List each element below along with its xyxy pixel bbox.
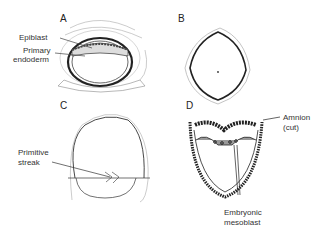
panel-b-drawing bbox=[185, 28, 250, 104]
panel-d-drawing bbox=[190, 117, 280, 197]
epiblast-label: Epiblast bbox=[19, 33, 47, 42]
panel-a-label: A bbox=[60, 13, 67, 24]
primitive-streak-label-2: streak bbox=[18, 158, 40, 167]
panel-b-label: B bbox=[178, 13, 185, 24]
diagram-canvas bbox=[0, 0, 327, 234]
amnion-label-1: Amnion bbox=[283, 113, 310, 122]
embryonic-mesoblast-label-2: mesoblast bbox=[224, 218, 260, 227]
primary-endoderm-label-2: endoderm bbox=[13, 55, 49, 64]
primitive-streak-label-1: Primitive bbox=[18, 148, 49, 157]
panel-a-drawing bbox=[55, 20, 147, 92]
panel-c-label: C bbox=[60, 100, 67, 111]
primary-endoderm-label-1: Primary bbox=[23, 46, 51, 55]
embryonic-mesoblast-label-1: Embryonic bbox=[224, 208, 262, 217]
panel-d-label: D bbox=[186, 100, 193, 111]
panel-c-drawing bbox=[52, 114, 150, 202]
amnion-label-2: (cut) bbox=[283, 123, 299, 132]
